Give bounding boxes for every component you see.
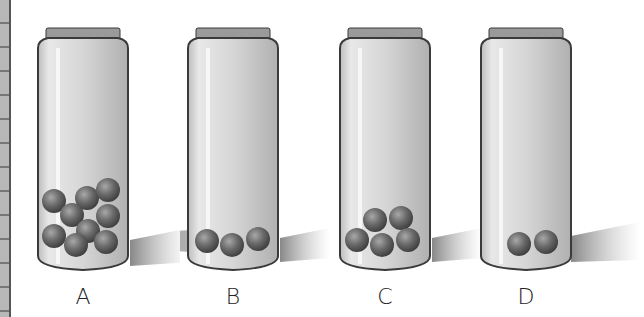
jar-d-label: D <box>451 284 601 309</box>
jar-a: A <box>30 0 180 317</box>
jar-a-label: A <box>8 284 158 309</box>
jar-c-graphic <box>332 0 482 317</box>
jar-b-graphic <box>180 0 330 317</box>
jar-b-label: B <box>158 284 308 309</box>
jar-a-graphic <box>30 0 180 317</box>
jar-d-graphic <box>475 0 644 317</box>
jar-b: B <box>180 0 330 317</box>
jar-c: C <box>332 0 482 317</box>
jar-d: D <box>475 0 625 317</box>
jar-c-label: C <box>310 284 460 309</box>
grid-edge-strip <box>0 0 11 317</box>
